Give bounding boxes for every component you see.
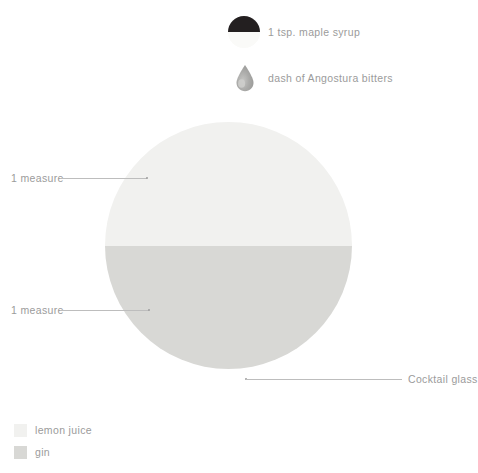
- disc-bottom-half: [228, 32, 260, 48]
- callout-label-top-measure: 1 measure: [11, 172, 64, 185]
- ingredient-row-angostura-bitters: dash of Angostura bitters: [228, 62, 478, 108]
- callout-leader-top-measure: [60, 178, 147, 179]
- callout-dot-bottom-measure: [148, 309, 150, 311]
- glass-layer-lemon-juice: [105, 122, 352, 246]
- ingredient-row-maple-syrup: 1 tsp. maple syrup: [228, 16, 478, 62]
- callout-label-bottom-measure: 1 measure: [11, 304, 64, 317]
- cocktail-diagram: 1 tsp. maple syrup dash of Angostura: [0, 0, 478, 473]
- droplet-icon: [228, 62, 262, 96]
- legend-label-gin: gin: [35, 446, 50, 458]
- callout-dot-top-measure: [146, 177, 148, 179]
- ingredient-label-maple-syrup: 1 tsp. maple syrup: [268, 26, 360, 38]
- callout-leader-cocktail-glass: [246, 379, 402, 380]
- disc-top-half: [228, 16, 260, 32]
- callout-leader-bottom-measure: [60, 310, 149, 311]
- ingredients-legend: 1 tsp. maple syrup dash of Angostura: [228, 16, 478, 108]
- half-filled-disc-icon: [228, 16, 262, 50]
- legend-swatch-gin: [14, 446, 27, 459]
- legend-label-lemon-juice: lemon juice: [35, 424, 92, 436]
- ingredient-label-angostura-bitters: dash of Angostura bitters: [268, 72, 393, 84]
- callout-label-cocktail-glass: Cocktail glass: [408, 373, 478, 386]
- legend-swatch-lemon-juice: [14, 424, 27, 437]
- cocktail-glass-circle: [105, 122, 352, 369]
- glass-layer-gin: [105, 246, 352, 370]
